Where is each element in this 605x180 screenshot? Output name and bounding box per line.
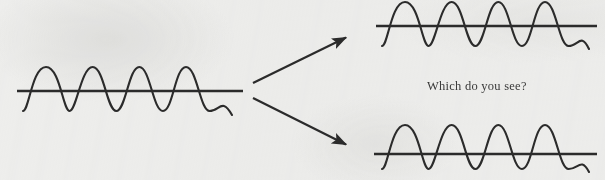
arrow-to-top-interpretation [253, 38, 346, 84]
bottom-interpretation-sine-wave [382, 125, 589, 172]
panel-interpretation-top [376, 2, 597, 49]
panel-interpretation-bottom [374, 125, 597, 172]
arrow-to-bottom-interpretation [253, 98, 346, 145]
panel-stimulus [17, 67, 243, 115]
figure-canvas: Which do you see? [0, 0, 605, 180]
which-do-you-see-caption: Which do you see? [427, 79, 527, 94]
